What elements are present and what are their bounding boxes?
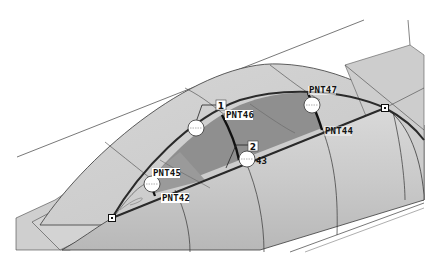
construction-line-right [408, 20, 410, 45]
datum-label-pnt46-text: PNT46 [226, 110, 254, 120]
datum-label-pnt43-text: 43 [256, 156, 267, 166]
datum-label-pnt42-text: PNT42 [162, 193, 190, 203]
vertex-start[interactable] [109, 215, 116, 222]
drag-handle-1[interactable] [188, 120, 204, 136]
datum-label-pnt47[interactable]: PNT47 [308, 85, 337, 95]
datum-label-pnt42[interactable]: PNT42 [161, 193, 190, 203]
cad-3d-viewport[interactable]: 1 2 PNT46 PNT47 PNT44 PNT45 PNT42 43 [0, 0, 436, 270]
datum-label-pnt45-text: PNT45 [153, 168, 181, 178]
datum-label-pnt43[interactable]: 43 [256, 156, 267, 166]
datum-label-pnt47-text: PNT47 [309, 85, 337, 95]
marker-1-label: 1 [218, 101, 224, 111]
datum-label-pnt45[interactable]: PNT45 [152, 168, 181, 178]
datum-label-pnt44[interactable]: PNT44 [324, 126, 353, 136]
marker-2-label: 2 [250, 142, 256, 152]
marker-2[interactable]: 2 [248, 141, 258, 152]
vertex-end[interactable] [382, 105, 389, 112]
marker-1[interactable]: 1 [216, 100, 226, 111]
datum-label-pnt44-text: PNT44 [325, 126, 353, 136]
datum-label-pnt46[interactable]: PNT46 [225, 110, 254, 120]
drag-handle-4[interactable] [144, 176, 160, 192]
drag-handle-3[interactable] [304, 97, 320, 113]
drag-handle-2[interactable] [239, 151, 255, 167]
